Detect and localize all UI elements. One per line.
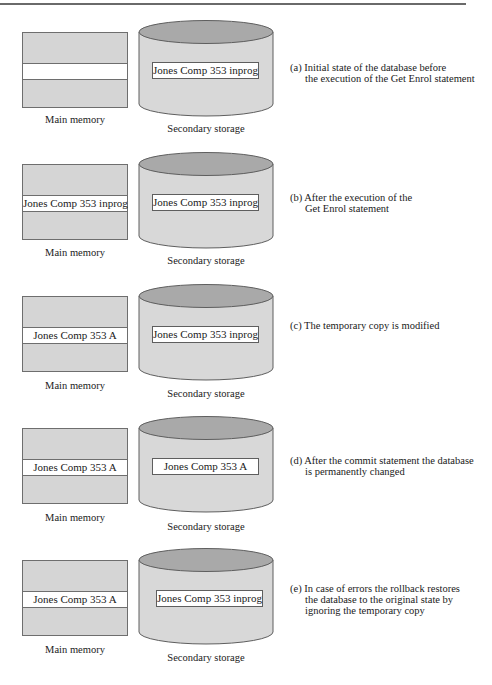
secondary-storage-cylinder: Jones Comp 353 A [138, 416, 274, 514]
secondary-storage-label: Secondary storage [138, 123, 274, 134]
caption-line-1: (c) The temporary copy is modified [290, 320, 490, 331]
caption-line-2: is permanently changed [290, 466, 490, 477]
main-memory-label: Main memory [22, 644, 128, 655]
panel-caption: (b) After the execution of the Get Enrol… [290, 192, 490, 214]
caption-line-2: Get Enrol statement [290, 203, 490, 214]
secondary-storage-label: Secondary storage [138, 255, 274, 266]
secondary-storage-label: Secondary storage [138, 521, 274, 532]
main-memory-box: Jones Comp 353 A [22, 428, 128, 504]
caption-line-1: (a) Initial state of the database before [290, 62, 490, 73]
panel-caption: (d) After the commit statement the datab… [290, 455, 490, 477]
secondary-storage-record: Jones Comp 353 inprog [152, 326, 259, 343]
caption-line-1: (e) In case of errors the rollback resto… [290, 583, 490, 594]
main-memory-label: Main memory [22, 114, 128, 125]
caption-line-3: ignoring the temporary copy [290, 605, 490, 616]
panel-caption: (e) In case of errors the rollback resto… [290, 583, 490, 616]
main-memory-record: Jones Comp 353 A [23, 591, 127, 608]
secondary-storage-cylinder: Jones Comp 353 inprog [138, 548, 274, 646]
main-memory-box: Jones Comp 353 A [22, 296, 128, 372]
main-memory-record [23, 63, 127, 80]
caption-line-1: (d) After the commit statement the datab… [290, 455, 490, 466]
main-memory-record: Jones Comp 353 A [23, 327, 127, 344]
secondary-storage-cylinder: Jones Comp 353 inprog [138, 152, 274, 250]
top-rule [0, 3, 466, 5]
caption-line-2: the database to the original state by [290, 594, 490, 605]
main-memory-box [22, 32, 128, 108]
main-memory-label: Main memory [22, 247, 128, 258]
secondary-storage-record: Jones Comp 353 inprog [156, 590, 263, 607]
main-memory-record: Jones Comp 353 A [23, 459, 127, 476]
main-memory-record: Jones Comp 353 inprog [23, 195, 127, 212]
main-memory-box: Jones Comp 353 inprog [22, 164, 128, 240]
main-memory-label: Main memory [22, 512, 128, 523]
secondary-storage-record: Jones Comp 353 inprog [152, 194, 259, 211]
secondary-storage-record: Jones Comp 353 A [152, 458, 259, 475]
caption-line-1: (b) After the execution of the [290, 192, 490, 203]
secondary-storage-label: Secondary storage [138, 388, 274, 399]
main-memory-box: Jones Comp 353 A [22, 560, 128, 636]
main-memory-label: Main memory [22, 380, 128, 391]
caption-line-2: the execution of the Get Enrol statement [290, 73, 490, 84]
secondary-storage-record: Jones Comp 353 inprog [152, 62, 259, 79]
panel-caption: (a) Initial state of the database before… [290, 62, 490, 84]
secondary-storage-cylinder: Jones Comp 353 inprog [138, 284, 274, 382]
secondary-storage-cylinder: Jones Comp 353 inprog [138, 20, 274, 118]
panel-caption: (c) The temporary copy is modified [290, 320, 490, 331]
secondary-storage-label: Secondary storage [138, 652, 274, 663]
